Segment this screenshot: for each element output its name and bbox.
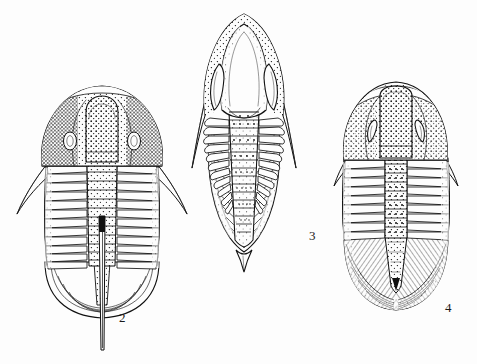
- fig4-glabella: [380, 86, 412, 158]
- fig4-axial-lobe: [385, 156, 407, 238]
- fig2-glabella: [86, 96, 118, 162]
- figure-4-trilobite: 4: [334, 80, 458, 315]
- figure-3-label: 3: [309, 228, 316, 243]
- plate-canvas: 2: [0, 0, 477, 364]
- trilobite-plate: 2: [0, 0, 477, 364]
- figure-2-label: 2: [119, 310, 126, 325]
- figure-4-label: 4: [445, 300, 452, 315]
